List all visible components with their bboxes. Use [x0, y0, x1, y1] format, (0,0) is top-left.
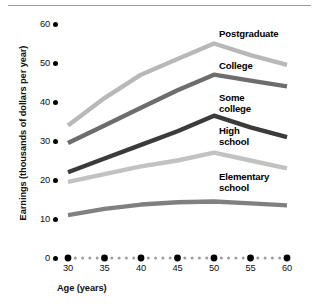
x-axis-major-dot [138, 255, 145, 262]
x-axis-major-dot [211, 255, 218, 262]
chart-plot-area [0, 0, 319, 304]
x-axis-minor-dot [256, 257, 259, 260]
x-axis-minor-dot [205, 257, 208, 260]
x-tick-label-60: 60 [282, 263, 292, 273]
x-axis-minor-dot [227, 257, 230, 260]
chart-root: Earnings (thousands of dollars per year)… [0, 0, 319, 304]
series-label-postgraduate: Postgraduate [219, 29, 279, 40]
x-axis-major-dot [65, 255, 72, 262]
series-line-postgraduate [68, 44, 287, 126]
x-axis-minor-dot [242, 257, 245, 260]
x-axis-dotted-line [65, 255, 291, 262]
x-axis-minor-dot [154, 257, 157, 260]
x-axis-minor-dot [147, 257, 150, 260]
x-tick-label-55: 55 [246, 263, 256, 273]
x-axis-minor-dot [278, 257, 281, 260]
x-axis-minor-dot [118, 257, 121, 260]
x-axis-major-dot [174, 255, 181, 262]
series-label-elementary-school: Elementary school [219, 172, 269, 193]
x-axis-minor-dot [110, 257, 113, 260]
x-tick-label-50: 50 [209, 263, 219, 273]
x-axis-minor-dot [132, 257, 135, 260]
x-axis-minor-dot [81, 257, 84, 260]
x-tick-label-45: 45 [173, 263, 183, 273]
x-axis-minor-dot [125, 257, 128, 260]
x-axis-minor-dot [191, 257, 194, 260]
x-axis-minor-dot [264, 257, 267, 260]
series-label-college: College [219, 61, 253, 72]
x-axis-minor-dot [271, 257, 274, 260]
x-axis-minor-dot [234, 257, 237, 260]
x-axis-minor-dot [161, 257, 164, 260]
x-axis-minor-dot [198, 257, 201, 260]
x-axis-minor-dot [74, 257, 77, 260]
x-axis-major-dot [101, 255, 108, 262]
x-axis-minor-dot [169, 257, 172, 260]
x-tick-label-35: 35 [100, 263, 110, 273]
series-line-some-college [68, 116, 287, 173]
x-axis-minor-dot [183, 257, 186, 260]
x-axis-minor-dot [220, 257, 223, 260]
x-axis-minor-dot [96, 257, 99, 260]
x-axis-minor-dot [88, 257, 91, 260]
x-axis-major-dot [284, 255, 291, 262]
x-axis-major-dot [247, 255, 254, 262]
series-line-elementary-school [68, 201, 287, 215]
series-label-some-college: Some college [219, 93, 251, 114]
x-tick-label-40: 40 [136, 263, 146, 273]
series-label-high-school: High school [219, 126, 249, 147]
x-tick-label-30: 30 [63, 263, 73, 273]
